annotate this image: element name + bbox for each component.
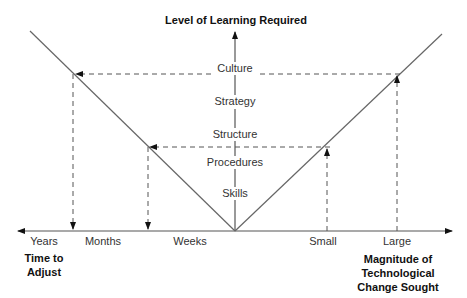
tick-weeks: Weeks: [173, 235, 206, 247]
tick-large: Large: [383, 235, 411, 247]
y-axis-title: Level of Learning Required: [165, 13, 307, 27]
x-axis-right-title-line2: Technological: [357, 266, 438, 280]
level-strategy: Strategy: [215, 95, 256, 107]
x-axis-right-title-line3: Change Sought: [357, 280, 438, 294]
x-axis-right-title: Magnitude of Technological Change Sought: [357, 252, 438, 294]
tick-small: Small: [309, 235, 337, 247]
magnitude-line: [235, 34, 442, 231]
level-skills: Skills: [222, 187, 248, 199]
level-procedures: Procedures: [207, 156, 263, 168]
tick-years: Years: [30, 235, 58, 247]
x-axis-right-title-line1: Magnitude of: [357, 252, 438, 266]
time-line: [30, 31, 235, 231]
x-axis-left-title: Time to Adjust: [25, 251, 64, 279]
level-structure: Structure: [213, 128, 258, 140]
tick-months: Months: [85, 235, 121, 247]
x-axis-left-title-line2: Adjust: [25, 265, 64, 279]
x-axis-left-title-line1: Time to: [25, 251, 64, 265]
level-culture: Culture: [217, 62, 252, 74]
